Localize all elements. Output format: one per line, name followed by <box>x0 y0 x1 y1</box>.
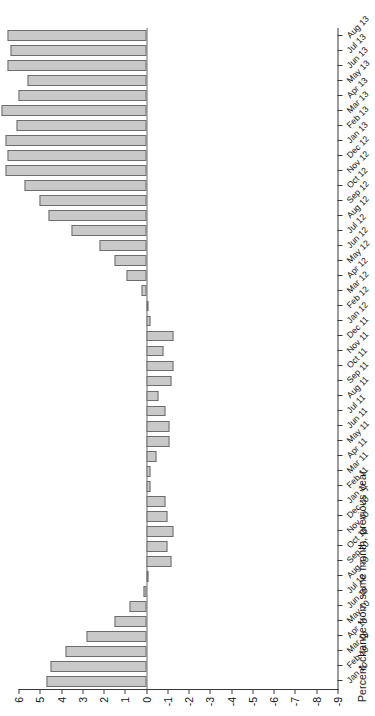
bar <box>146 316 150 327</box>
bar <box>146 301 148 312</box>
category-tick <box>337 440 342 441</box>
bar <box>27 75 146 86</box>
value-tick <box>167 689 168 694</box>
category-tick <box>337 545 342 546</box>
bar <box>50 661 146 672</box>
category-tick <box>337 485 342 486</box>
bar <box>146 376 172 387</box>
bar <box>146 436 169 447</box>
bar <box>146 466 150 477</box>
bar <box>16 120 146 131</box>
category-tick <box>337 260 342 261</box>
category-tick <box>337 515 342 516</box>
bar <box>1 105 146 116</box>
category-tick <box>337 170 342 171</box>
value-tick-label: -4 <box>225 697 237 706</box>
value-tick <box>209 689 210 694</box>
value-tick-label: 5 <box>33 697 45 703</box>
bar <box>7 150 145 161</box>
category-tick <box>337 425 342 426</box>
bar <box>46 676 146 687</box>
category-tick <box>337 305 342 306</box>
category-tick <box>337 245 342 246</box>
value-tick-label: 2 <box>97 697 109 703</box>
category-tick <box>337 140 342 141</box>
bar <box>99 240 146 251</box>
bar <box>5 165 145 176</box>
chart-canvas: Percent change from same month, previous… <box>0 0 375 716</box>
category-tick <box>337 350 342 351</box>
category-tick <box>337 185 342 186</box>
bar <box>146 556 172 567</box>
value-tick-label: -6 <box>267 697 279 706</box>
rotated-chart-wrapper: Percent change from same month, previous… <box>0 0 375 716</box>
bar <box>10 45 146 56</box>
bar <box>146 481 150 492</box>
category-tick <box>337 110 342 111</box>
value-tick-label: 4 <box>55 697 67 703</box>
category-tick <box>337 35 342 36</box>
category-tick <box>337 470 342 471</box>
value-tick-label: -9 <box>331 697 343 706</box>
category-tick <box>337 200 342 201</box>
value-tick <box>231 689 232 694</box>
bar <box>146 406 165 417</box>
bar <box>146 571 148 582</box>
category-tick <box>337 395 342 396</box>
value-tick <box>103 689 104 694</box>
value-tick-label: 1 <box>118 697 130 703</box>
bar <box>114 255 146 266</box>
value-tick-label: 0 <box>140 697 152 703</box>
category-tick <box>337 590 342 591</box>
category-tick <box>337 620 342 621</box>
bar <box>5 135 145 146</box>
value-tick <box>252 689 253 694</box>
bar <box>7 60 145 71</box>
category-tick <box>337 681 342 682</box>
category-tick <box>337 50 342 51</box>
category-tick <box>337 665 342 666</box>
value-tick-label: 6 <box>12 697 24 703</box>
value-tick <box>316 689 317 694</box>
category-tick <box>337 605 342 606</box>
category-tick <box>337 380 342 381</box>
bar <box>48 210 146 221</box>
value-tick-label: -1 <box>161 697 173 706</box>
value-tick <box>82 689 83 694</box>
plot-area: 6543210-1-2-3-4-5-6-7-8-9 Jan 10Feb 10Ma… <box>18 28 338 690</box>
category-tick <box>337 410 342 411</box>
bar <box>146 526 174 537</box>
value-tick-label: -7 <box>288 697 300 706</box>
category-tick <box>337 80 342 81</box>
category-tick <box>337 365 342 366</box>
category-tick <box>337 455 342 456</box>
bar <box>146 451 157 462</box>
value-tick <box>337 689 338 694</box>
category-tick <box>337 155 342 156</box>
value-tick <box>273 689 274 694</box>
bar <box>65 646 146 657</box>
category-tick <box>337 215 342 216</box>
value-tick <box>188 689 189 694</box>
bar <box>146 541 167 552</box>
category-tick <box>337 635 342 636</box>
category-tick <box>337 500 342 501</box>
value-tick-label: -2 <box>182 697 194 706</box>
category-tick <box>337 95 342 96</box>
category-tick <box>337 275 342 276</box>
bar <box>86 631 146 642</box>
bar <box>126 270 145 281</box>
value-tick-label: -3 <box>203 697 215 706</box>
bar <box>146 361 174 372</box>
bar <box>146 331 174 342</box>
bar <box>114 616 146 627</box>
bar <box>146 511 167 522</box>
category-tick <box>337 575 342 576</box>
bar <box>39 195 145 206</box>
value-tick-label: -5 <box>246 697 258 706</box>
bar <box>146 391 159 402</box>
bar <box>71 225 145 236</box>
category-tick <box>337 65 342 66</box>
category-tick <box>337 320 342 321</box>
bar <box>24 180 145 191</box>
